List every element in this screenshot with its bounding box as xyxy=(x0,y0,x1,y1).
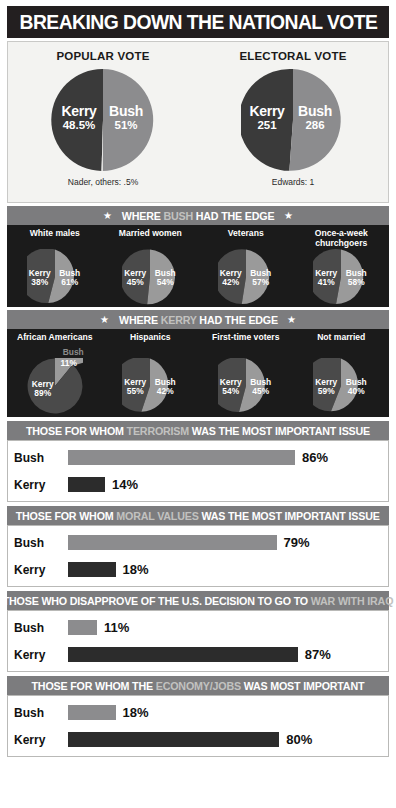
demo-kerry-label: Kerry 41% xyxy=(312,269,340,287)
star-icon: ★ xyxy=(100,314,109,325)
bar-value: 11% xyxy=(104,620,129,635)
bar-label: Kerry xyxy=(14,733,68,747)
bar-label: Kerry xyxy=(14,563,68,577)
electoral-kerry-label: Kerry 251 xyxy=(245,104,289,131)
bar-value: 79% xyxy=(284,535,310,550)
bar-kerry xyxy=(68,732,279,747)
popular-vote-footnote: Nader, others: .5% xyxy=(68,177,138,187)
demo-label: Married women xyxy=(119,229,182,249)
demo-item: Not married Kerry 59% Bush 40% xyxy=(294,329,390,417)
bar-kerry xyxy=(68,647,298,662)
bar-label: Bush xyxy=(14,621,68,635)
bar-kerry xyxy=(68,562,116,577)
bar-row-bush: Bush 79% xyxy=(14,531,382,555)
demo-label: Veterans xyxy=(228,229,264,249)
demo-pie: Bush 11% Kerry 89% xyxy=(27,358,83,414)
demo-pie: Kerry 59% Bush 40% xyxy=(313,358,369,414)
demo-kerry-label: Kerry 45% xyxy=(121,269,149,287)
demo-kerry-label: Kerry 59% xyxy=(312,378,340,396)
demo-item: African Americans Bush 11% Kerry 89% xyxy=(7,329,103,417)
demo-pie: Kerry 42% Bush 57% xyxy=(218,249,274,305)
issue-bars-moral-values: Bush 79% Kerry 18% xyxy=(7,525,389,587)
star-icon: ★ xyxy=(287,314,296,325)
bar-label: Kerry xyxy=(14,648,68,662)
kerry-edge-title: WHERE KERRY HAD THE EDGE xyxy=(119,314,278,326)
demo-label: Not married xyxy=(317,333,365,353)
bar-value: 86% xyxy=(302,450,328,465)
demo-pie: Kerry 54% Bush 45% xyxy=(218,358,274,414)
popular-vote-pie: Kerry 48.5% Bush 51% xyxy=(51,68,155,172)
electoral-vote-pie: Kerry 251 Bush 286 xyxy=(241,68,345,172)
demo-kerry-label: Kerry 89% xyxy=(28,380,58,398)
demo-label: Hispanics xyxy=(130,333,171,353)
page-header: ★ BREAKING DOWN THE NATIONAL VOTE ★ xyxy=(7,6,389,38)
popular-kerry-label: Kerry 48.5% xyxy=(57,104,101,131)
demo-item: Hispanics Kerry 55% Bush 42% xyxy=(103,329,199,417)
kerry-edge-band: ★ WHERE KERRY HAD THE EDGE ★ xyxy=(7,310,389,329)
demo-bush-label: Bush 54% xyxy=(151,269,179,287)
popular-vote-title: POPULAR VOTE xyxy=(56,50,149,62)
issue-band-economy-jobs: THOSE FOR WHOM THE ECONOMY/JOBS WAS MOST… xyxy=(7,676,389,695)
demo-bush-label: Bush 40% xyxy=(342,378,370,396)
popular-bush-label: Bush 51% xyxy=(104,104,148,131)
electoral-vote-title: ELECTORAL VOTE xyxy=(239,50,346,62)
bar-value: 18% xyxy=(123,562,149,577)
issue-title: THOSE FOR WHOM MORAL VALUES WAS THE MOST… xyxy=(16,510,380,522)
issue-title: THOSE WHO DISAPPROVE OF THE U.S. DECISIO… xyxy=(3,595,394,607)
bush-edge-title: WHERE BUSH HAD THE EDGE xyxy=(122,210,275,222)
infographic-page: ★ BREAKING DOWN THE NATIONAL VOTE ★ POPU… xyxy=(0,0,396,808)
bar-bush xyxy=(68,535,277,550)
bar-bush xyxy=(68,705,116,720)
demo-kerry-label: Kerry 55% xyxy=(121,378,149,396)
bar-row-kerry: Kerry 80% xyxy=(14,728,382,752)
issue-title: THOSE FOR WHOM THE ECONOMY/JOBS WAS MOST… xyxy=(32,680,365,692)
issue-bars-terrorism: Bush 86% Kerry 14% xyxy=(7,440,389,502)
electoral-vote-footnote: Edwards: 1 xyxy=(272,177,315,187)
bar-value: 80% xyxy=(286,732,312,747)
bar-label: Bush xyxy=(14,451,68,465)
bar-row-bush: Bush 86% xyxy=(14,446,382,470)
bar-row-kerry: Kerry 18% xyxy=(14,558,382,582)
electoral-vote-block: ELECTORAL VOTE Kerry 251 Bush 286 xyxy=(198,42,388,202)
bar-value: 87% xyxy=(305,647,331,662)
issue-band-moral-values: THOSE FOR WHOM MORAL VALUES WAS THE MOST… xyxy=(7,506,389,525)
demo-kerry-label: Kerry 54% xyxy=(217,378,245,396)
bar-row-kerry: Kerry 87% xyxy=(14,643,382,667)
bar-label: Kerry xyxy=(14,478,68,492)
demo-label: White males xyxy=(30,229,80,249)
demo-bush-outside-label: Bush xyxy=(63,347,84,357)
bar-label: Bush xyxy=(14,536,68,550)
demo-pie: Kerry 38% Bush 61% xyxy=(27,249,83,305)
demo-bush-label: Bush 45% xyxy=(247,378,275,396)
bush-edge-band: ★ WHERE BUSH HAD THE EDGE ★ xyxy=(7,206,389,225)
star-icon: ★ xyxy=(103,210,112,221)
demo-item: Once-a-week churchgoers Kerry 41% Bush 5… xyxy=(294,225,390,307)
electoral-bush-label: Bush 286 xyxy=(293,104,337,131)
demo-item: Married women Kerry 45% Bush 54% xyxy=(103,225,199,307)
bar-label: Bush xyxy=(14,706,68,720)
demo-kerry-label: Kerry 38% xyxy=(26,269,54,287)
demo-bush-label: Bush 57% xyxy=(247,269,275,287)
bush-edge-strip: White males Kerry 38% Bush 61% Married w… xyxy=(7,225,389,307)
star-icon: ★ xyxy=(284,210,293,221)
bar-row-kerry: Kerry 14% xyxy=(14,473,382,497)
bar-bush xyxy=(68,450,295,465)
demo-pie: Kerry 41% Bush 58% xyxy=(313,249,369,305)
popular-vote-block: POPULAR VOTE Kerry 48.5% Bush 51% xyxy=(8,42,198,202)
demo-item: White males Kerry 38% Bush 61% xyxy=(7,225,103,307)
demo-label: Once-a-week churchgoers xyxy=(294,229,390,249)
demo-label: First-time voters xyxy=(212,333,279,353)
national-vote-panel: POPULAR VOTE Kerry 48.5% Bush 51% xyxy=(7,41,389,203)
issue-bars-iraq-war: Bush 11% Kerry 87% xyxy=(7,610,389,672)
demo-bush-label: Bush 58% xyxy=(342,269,370,287)
demo-bush-value: 11% xyxy=(57,359,81,368)
bar-value: 14% xyxy=(112,477,138,492)
issue-band-iraq-war: THOSE WHO DISAPPROVE OF THE U.S. DECISIO… xyxy=(7,591,389,610)
bar-value: 18% xyxy=(123,705,149,720)
demo-kerry-label: Kerry 42% xyxy=(217,269,245,287)
bar-bush xyxy=(68,620,97,635)
page-title: BREAKING DOWN THE NATIONAL VOTE xyxy=(19,10,377,34)
demo-item: Veterans Kerry 42% Bush 57% xyxy=(198,225,294,307)
demo-item: First-time voters Kerry 54% Bush 45% xyxy=(198,329,294,417)
demo-pie: Kerry 55% Bush 42% xyxy=(122,358,178,414)
